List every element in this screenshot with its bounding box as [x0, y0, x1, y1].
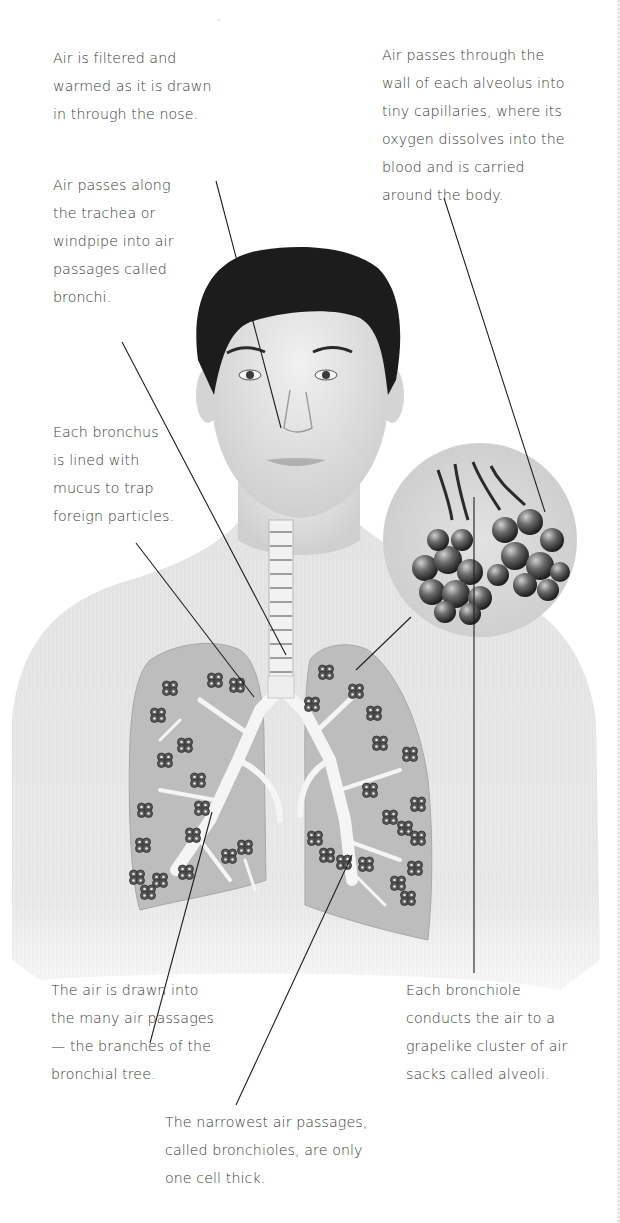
label-line: windpipe into air [53, 227, 174, 255]
label-line: blood and is carried [382, 153, 565, 181]
label-line: bronchial tree. [51, 1060, 214, 1088]
label-trachea: Air passes along the trachea or windpipe… [53, 171, 174, 311]
label-line: the trachea or [53, 199, 174, 227]
label-line: The air is drawn into [51, 976, 214, 1004]
label-bronchial-tree: The air is drawn into the many air passa… [51, 976, 214, 1088]
label-line: passages called [53, 255, 174, 283]
label-line: Each bronchus [53, 418, 174, 446]
label-line: oxygen dissolves into the [382, 125, 565, 153]
label-line: Air passes along [53, 171, 174, 199]
alveoli-inset [383, 443, 577, 637]
label-line: called bronchioles, are only [165, 1136, 367, 1164]
label-line: the many air passages [51, 1004, 214, 1032]
label-line: foreign particles. [53, 502, 174, 530]
label-bronchus: Each bronchus is lined with mucus to tra… [53, 418, 174, 530]
label-line: tiny capillaries, where its [382, 97, 565, 125]
label-line: in through the nose. [53, 100, 212, 128]
label-line: is lined with [53, 446, 174, 474]
label-line: wall of each alveolus into [382, 69, 565, 97]
respiratory-diagram-page: Air is filtered and warmed as it is draw… [0, 0, 620, 1223]
label-line: around the body. [382, 181, 565, 209]
label-line: bronchi. [53, 283, 174, 311]
label-bronchioles-narrow: The narrowest air passages, called bronc… [165, 1108, 367, 1192]
label-line: one cell thick. [165, 1164, 367, 1192]
label-line: warmed as it is drawn [53, 72, 212, 100]
label-nose: Air is filtered and warmed as it is draw… [53, 44, 212, 128]
label-line: Air passes through the [382, 41, 565, 69]
trachea [269, 520, 293, 690]
label-line: conducts the air to a [406, 1004, 567, 1032]
label-line: grapelike cluster of air [406, 1032, 567, 1060]
label-alveolus-wall: Air passes through the wall of each alve… [382, 41, 565, 209]
label-line: mucus to trap [53, 474, 174, 502]
label-line: Air is filtered and [53, 44, 212, 72]
head [196, 247, 404, 518]
label-line: sacks called alveoli. [406, 1060, 567, 1088]
label-line: Each bronchiole [406, 976, 567, 1004]
label-line: The narrowest air passages, [165, 1108, 367, 1136]
stray-dot [218, 19, 220, 21]
label-bronchiole: Each bronchiole conducts the air to a gr… [406, 976, 567, 1088]
label-line: — the branches of the [51, 1032, 214, 1060]
